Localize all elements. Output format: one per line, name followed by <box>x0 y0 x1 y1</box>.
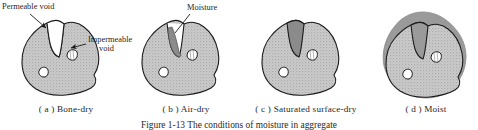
caption-panel-a: ( a ) Bone-dry <box>16 104 116 114</box>
panel-moist <box>374 10 478 106</box>
callout-impermeable-void: Impermeable void <box>88 35 146 54</box>
panel-air-dry <box>134 14 238 104</box>
caption-panel-c: ( c ) Saturated surface-dry <box>236 104 376 114</box>
figure-caption: Figure 1-13 The conditions of moisture i… <box>0 120 478 130</box>
void-impermeable-d <box>431 52 441 62</box>
aggregate-body-b <box>142 20 219 95</box>
panel-c-graphic <box>254 14 358 104</box>
void-inner-d <box>403 69 413 79</box>
panel-d-graphic <box>374 10 478 106</box>
panel-b-graphic <box>134 14 238 104</box>
panel-saturated-surface-dry <box>254 14 358 104</box>
figure-container: Permeable void Impermeable void Moisture… <box>0 0 478 130</box>
void-inner-c <box>279 67 289 77</box>
void-impermeable-c <box>307 50 317 60</box>
callout-impermeable-void-line2: void <box>99 44 114 53</box>
panel-bone-dry <box>14 14 118 104</box>
void-inner-b <box>159 67 169 77</box>
void-impermeable-b <box>187 50 197 60</box>
aggregate-body-a <box>22 20 99 95</box>
caption-panel-b: ( b ) Air-dry <box>136 104 236 114</box>
void-impermeable-a <box>67 50 77 60</box>
callout-moisture: Moisture <box>187 3 217 12</box>
callout-permeable-void: Permeable void <box>2 2 54 11</box>
callout-impermeable-void-line1: Impermeable <box>88 35 132 44</box>
caption-panel-d: ( d ) Moist <box>378 104 474 114</box>
panel-a-graphic <box>14 14 118 104</box>
void-inner-a <box>39 67 49 77</box>
